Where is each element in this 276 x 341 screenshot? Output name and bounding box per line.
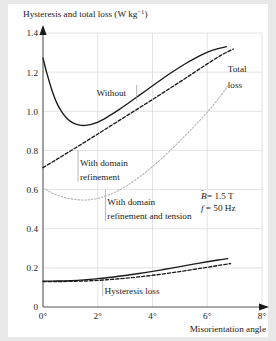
x-axis-arrow <box>259 303 269 310</box>
data-series-group <box>43 47 233 282</box>
y-tick-label: 1.4 <box>27 28 39 38</box>
series-line <box>43 49 233 168</box>
conditions-annotation: Bˆ = 1.5 T f = 50 Hz <box>201 188 236 213</box>
condition-frequency: f = 50 Hz <box>201 203 236 213</box>
y-tick-label: 1.2 <box>27 68 39 78</box>
x-tick-label: 4° <box>148 311 157 321</box>
annotation-total-loss-line2: loss <box>228 80 243 90</box>
y-tick-label: 0 <box>33 302 38 312</box>
annotation-total-loss-line1: Total <box>228 64 247 74</box>
curve-annotations: WithoutTotallossWith domainrefinementWit… <box>80 64 247 295</box>
y-tick-label: 1.0 <box>27 107 39 117</box>
condition-peak-flux-density: Bˆ = 1.5 T <box>201 188 234 201</box>
condition-f-value: = 50 Hz <box>204 203 236 213</box>
x-tick-label: 6° <box>203 311 212 321</box>
series-line <box>43 264 231 282</box>
chart-svg: 0°2°4°6°8° 00.20.40.60.81.01.21.4 Withou… <box>0 0 276 341</box>
annotation-with-domain-refinement-line2: refinement <box>80 172 120 182</box>
y-tick-labels: 00.20.40.60.81.01.21.4 <box>27 28 39 312</box>
chart-title-main: Hysteresis and total loss (W kg <box>23 9 138 19</box>
x-tick-label: 0° <box>39 311 48 321</box>
y-axis-arrow <box>39 25 46 35</box>
y-tick-label: 0.8 <box>27 146 39 156</box>
annotation-with-domain-refinement-tension-line1: With domain <box>107 197 155 207</box>
x-tick-labels: 0°2°4°6°8° <box>39 311 267 321</box>
x-tick-label: 2° <box>94 311 103 321</box>
annotation-without: Without <box>96 88 126 98</box>
y-tick-label: 0.2 <box>27 263 39 273</box>
chart-title-exponent: −1 <box>137 8 144 15</box>
condition-b-value: = 1.5 T <box>205 191 234 201</box>
chart-title-tail: ) <box>144 9 147 19</box>
chart-title: Hysteresis and total loss (W kg−1) <box>23 8 147 19</box>
annotation-with-domain-refinement-line1: With domain <box>80 158 128 168</box>
series-line <box>43 84 229 200</box>
y-tick-label: 0.4 <box>27 224 39 234</box>
annotation-with-domain-refinement-tension-line2: refinement and tension <box>107 211 192 221</box>
series-line <box>43 47 226 126</box>
y-tick-label: 0.6 <box>27 185 39 195</box>
figure-container: 0°2°4°6°8° 00.20.40.60.81.01.21.4 Withou… <box>0 0 276 341</box>
x-axis-title: Misorientation angle <box>190 324 266 334</box>
annotation-hysteresis-loss: Hysteresis loss <box>105 286 160 296</box>
x-tick-label: 8° <box>258 311 267 321</box>
series-line <box>43 259 228 282</box>
